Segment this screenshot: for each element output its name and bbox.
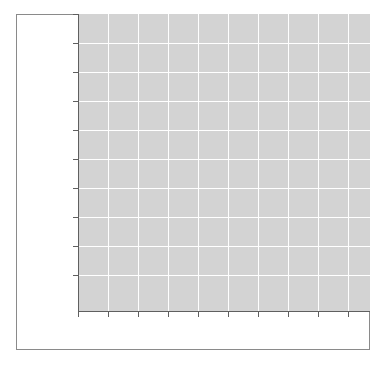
y-axis-tick-mark: [73, 159, 78, 160]
y-axis-tick-mark: [73, 43, 78, 44]
horizontal-gridline: [78, 188, 370, 189]
horizontal-gridline: [78, 246, 370, 247]
x-axis-tick-mark: [348, 312, 349, 317]
y-axis-tick-mark: [73, 275, 78, 276]
vertical-gridline: [198, 14, 199, 311]
x-axis-tick-mark: [78, 312, 79, 317]
y-axis-spine: [78, 14, 79, 312]
figure-canvas: [0, 0, 387, 366]
horizontal-gridline: [78, 72, 370, 73]
x-axis-tick-mark: [228, 312, 229, 317]
vertical-gridline: [228, 14, 229, 311]
horizontal-gridline: [78, 275, 370, 276]
horizontal-gridline: [78, 101, 370, 102]
vertical-gridline: [168, 14, 169, 311]
y-axis-tick-mark: [73, 101, 78, 102]
vertical-gridline: [258, 14, 259, 311]
x-axis-tick-mark: [258, 312, 259, 317]
vertical-gridline: [348, 14, 349, 311]
vertical-gridline: [288, 14, 289, 311]
vertical-gridline: [138, 14, 139, 311]
y-axis-tick-mark: [73, 217, 78, 218]
x-axis-tick-mark: [168, 312, 169, 317]
vertical-gridline: [108, 14, 109, 311]
x-axis-tick-mark: [138, 312, 139, 317]
x-axis-tick-mark: [288, 312, 289, 317]
y-axis-tick-mark: [73, 72, 78, 73]
horizontal-gridline: [78, 43, 370, 44]
y-axis-tick-mark: [73, 130, 78, 131]
x-axis-tick-mark: [108, 312, 109, 317]
y-axis-tick-mark: [73, 14, 78, 15]
plot-area[interactable]: [78, 14, 370, 311]
vertical-gridline: [318, 14, 319, 311]
y-axis-tick-mark: [73, 188, 78, 189]
x-axis-spine: [78, 311, 370, 312]
horizontal-gridline: [78, 130, 370, 131]
x-axis-tick-mark: [318, 312, 319, 317]
x-axis-tick-mark: [198, 312, 199, 317]
y-axis-tick-mark: [73, 246, 78, 247]
horizontal-gridline: [78, 159, 370, 160]
horizontal-gridline: [78, 217, 370, 218]
